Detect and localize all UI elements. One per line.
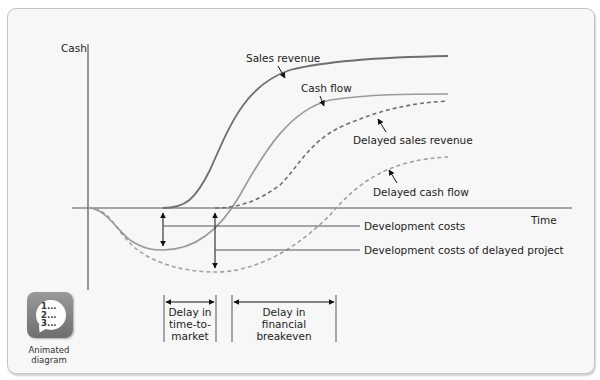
caption-line-1: Animated (12, 345, 86, 355)
label-development-costs: Development costs (364, 220, 465, 232)
label-sales-revenue: Sales revenue (246, 52, 320, 64)
animated-diagram-caption: Animated diagram (12, 345, 86, 365)
y-axis-label: Cash (61, 42, 87, 54)
label-delayed-sales-revenue: Delayed sales revenue (353, 134, 473, 146)
delay-breakeven-line1: Delay in (262, 306, 305, 318)
delay-ttm-line3: market (171, 330, 208, 342)
cash-flow-diagram: Cash Time Sales revenue Cash flow Delaye… (0, 0, 600, 380)
animated-diagram-button[interactable]: 1... 2... 3... (27, 292, 73, 338)
delay-breakeven-line2: financial (262, 318, 306, 330)
x-axis-label: Time (530, 214, 557, 226)
delay-breakeven-line3: breakeven (256, 330, 311, 342)
label-cash-flow: Cash flow (301, 82, 352, 94)
label-delayed-cash-flow: Delayed cash flow (373, 186, 469, 198)
pointer-delayed-sales-revenue (378, 119, 386, 132)
label-development-costs-delayed: Development costs of delayed project (364, 244, 564, 256)
delay-ttm-line1: Delay in (168, 306, 211, 318)
delay-ttm-line2: time-to- (169, 318, 211, 330)
pointer-delayed-cash-flow (389, 170, 397, 183)
caption-line-2: diagram (12, 355, 86, 365)
pointer-cash-flow (320, 96, 324, 106)
numbered-list-icon: 1... 2... 3... (41, 302, 57, 328)
